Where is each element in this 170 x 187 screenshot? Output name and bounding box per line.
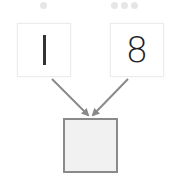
dot-icon: [131, 2, 138, 9]
answer-box[interactable]: [63, 118, 118, 173]
right-number-card[interactable]: 8: [110, 23, 164, 77]
dot-icon: [121, 2, 128, 9]
arrow-down-left-icon: [93, 79, 128, 115]
arrow-down-right-icon: [52, 79, 88, 115]
dot-icon: [40, 2, 47, 9]
left-number-glyph: [43, 35, 46, 65]
right-number-value: 8: [126, 32, 149, 68]
left-dot-indicator: [40, 2, 47, 9]
right-dot-indicator: [111, 2, 138, 9]
left-number-card[interactable]: 1: [17, 23, 71, 77]
dot-icon: [111, 2, 118, 9]
